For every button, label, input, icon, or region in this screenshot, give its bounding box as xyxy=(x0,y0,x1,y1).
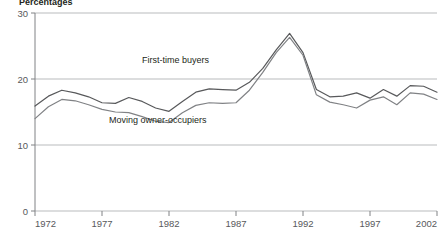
series-lines xyxy=(35,33,437,122)
y-tick-label: 0 xyxy=(23,206,28,217)
x-tick-label: 1987 xyxy=(225,218,246,229)
chart-canvas: 0102030 1972197719821987199219972002 Fir… xyxy=(0,0,448,233)
y-tick-label: 30 xyxy=(17,8,28,19)
y-axis-ticks: 0102030 xyxy=(17,8,35,217)
x-tick-label: 1997 xyxy=(359,218,380,229)
x-tick-label: 2002 xyxy=(416,218,437,229)
x-tick-label: 1992 xyxy=(292,218,313,229)
moving-owner-occupiers-label: Moving owner-occupiers xyxy=(109,115,207,125)
x-tick-label: 1977 xyxy=(91,218,112,229)
series-line xyxy=(35,37,437,122)
series-annotations: First-time buyersMoving owner-occupiers xyxy=(109,55,210,125)
y-tick-label: 20 xyxy=(17,74,28,85)
line-chart: Percentages 0102030 19721977198219871992… xyxy=(0,0,448,233)
gridlines xyxy=(35,13,437,211)
x-axis-ticks: 1972197719821987199219972002 xyxy=(35,211,437,229)
x-tick-label: 1972 xyxy=(35,218,56,229)
x-tick-label: 1982 xyxy=(158,218,179,229)
series-line xyxy=(35,33,437,111)
y-tick-label: 10 xyxy=(17,140,28,151)
first-time-buyers-label: First-time buyers xyxy=(142,55,210,65)
